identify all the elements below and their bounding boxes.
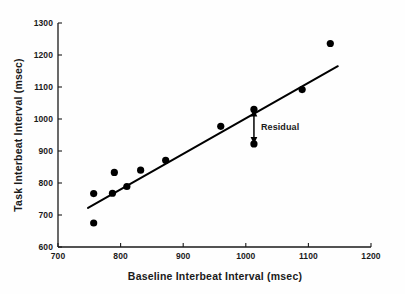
x-tick-label: 1000 — [236, 251, 255, 261]
data-point — [137, 167, 144, 174]
x-tick-label: 1100 — [299, 251, 318, 261]
residual-label: Residual — [261, 122, 299, 132]
chart-figure: 1300 1200 1100 1000 900 800 700 600 700 … — [0, 0, 405, 294]
data-point — [217, 123, 224, 130]
data-point — [123, 183, 130, 190]
x-tick-label: 1200 — [361, 251, 380, 261]
data-points-group — [90, 40, 334, 227]
data-point — [327, 40, 334, 47]
data-point — [111, 169, 118, 176]
data-point — [90, 190, 97, 197]
y-tick-labels: 1300 1200 1100 1000 900 800 700 600 — [34, 18, 53, 252]
y-tick-label: 1000 — [34, 114, 53, 124]
x-axis-title: Baseline Interbeat Interval (msec) — [128, 270, 302, 282]
y-axis-title: Task Interbeat Interval (msec) — [12, 58, 24, 211]
data-point — [299, 86, 306, 93]
x-tick-labels: 700 800 900 1000 1100 1200 — [51, 251, 381, 261]
y-tick-label: 700 — [39, 210, 54, 220]
y-tick-label: 1200 — [34, 50, 53, 60]
y-tick-label: 1100 — [34, 82, 53, 92]
residual-annotation: Residual — [251, 109, 300, 144]
data-point — [162, 157, 169, 164]
data-point — [109, 190, 116, 197]
y-tick-label: 1300 — [34, 18, 53, 28]
scatter-plot: 1300 1200 1100 1000 900 800 700 600 700 … — [0, 0, 405, 294]
x-tick-label: 900 — [176, 251, 191, 261]
y-tick-label: 900 — [39, 146, 54, 156]
data-point — [90, 219, 97, 226]
x-tick-label: 700 — [51, 251, 66, 261]
y-tick-label: 800 — [39, 178, 54, 188]
axes-group — [58, 23, 371, 247]
x-tick-label: 800 — [113, 251, 128, 261]
